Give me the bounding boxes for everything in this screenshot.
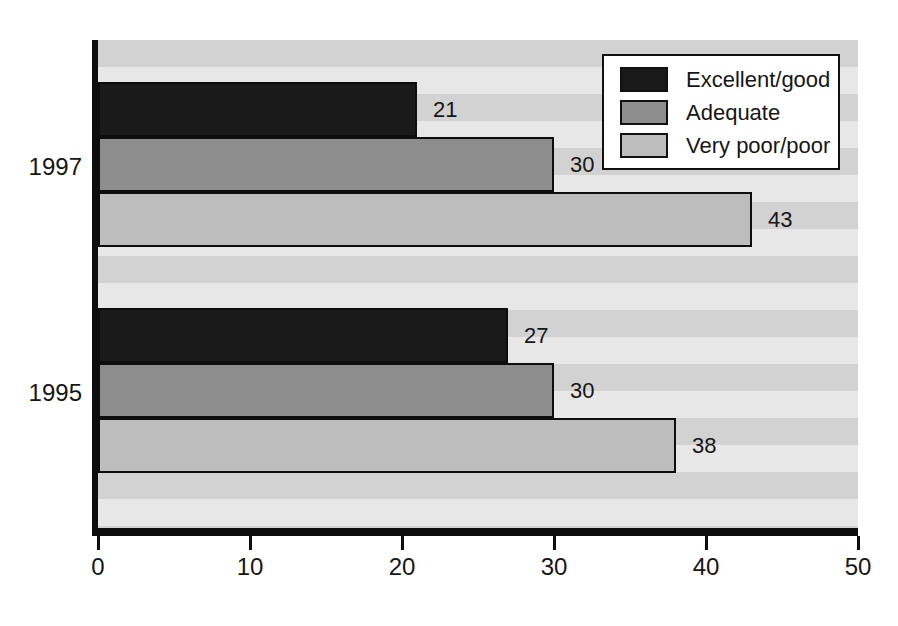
x-axis-tick <box>705 536 708 550</box>
category-label-1997: 1997 <box>8 152 82 182</box>
legend-swatch-very-poor-poor-icon <box>620 133 668 158</box>
bar-value-label: 30 <box>570 151 594 179</box>
bar-very-poor-poor-1995 <box>98 418 676 473</box>
y-axis-line <box>92 40 98 536</box>
x-axis-tick <box>401 536 404 550</box>
legend: Excellent/good Adequate Very poor/poor <box>602 54 840 170</box>
bar-value-label: 27 <box>524 322 548 350</box>
bar-excellent-good-1995 <box>98 308 508 363</box>
x-axis-tick-label: 10 <box>218 552 282 582</box>
bar-very-poor-poor-1997 <box>98 192 752 247</box>
x-axis-tick-label: 30 <box>522 552 586 582</box>
legend-item-very-poor-poor: Very poor/poor <box>620 133 838 158</box>
x-axis-tick-label: 50 <box>826 552 890 582</box>
bar-value-label: 38 <box>692 432 716 460</box>
bar-value-label: 43 <box>768 206 792 234</box>
legend-swatch-adequate-icon <box>620 100 668 125</box>
x-axis-tick-label: 0 <box>66 552 130 582</box>
x-axis-tick <box>857 536 860 550</box>
legend-item-excellent-good: Excellent/good <box>620 67 838 92</box>
legend-label: Excellent/good <box>686 67 830 92</box>
x-axis-tick <box>97 536 100 550</box>
bar-value-label: 21 <box>433 96 457 124</box>
bar-chart: Excellent/good Adequate Very poor/poor 2… <box>0 0 898 626</box>
bar-adequate-1995 <box>98 363 554 418</box>
bar-value-label: 30 <box>570 377 594 405</box>
category-label-1995: 1995 <box>8 378 82 408</box>
x-axis-tick-label: 40 <box>674 552 738 582</box>
x-axis-tick-label: 20 <box>370 552 434 582</box>
x-axis-tick <box>249 536 252 550</box>
legend-item-adequate: Adequate <box>620 100 838 125</box>
x-axis-tick <box>553 536 556 550</box>
bar-excellent-good-1997 <box>98 82 417 137</box>
legend-label: Very poor/poor <box>686 133 830 158</box>
legend-swatch-excellent-good-icon <box>620 67 668 92</box>
legend-label: Adequate <box>686 100 780 125</box>
x-axis-line <box>92 528 858 536</box>
bar-adequate-1997 <box>98 137 554 192</box>
